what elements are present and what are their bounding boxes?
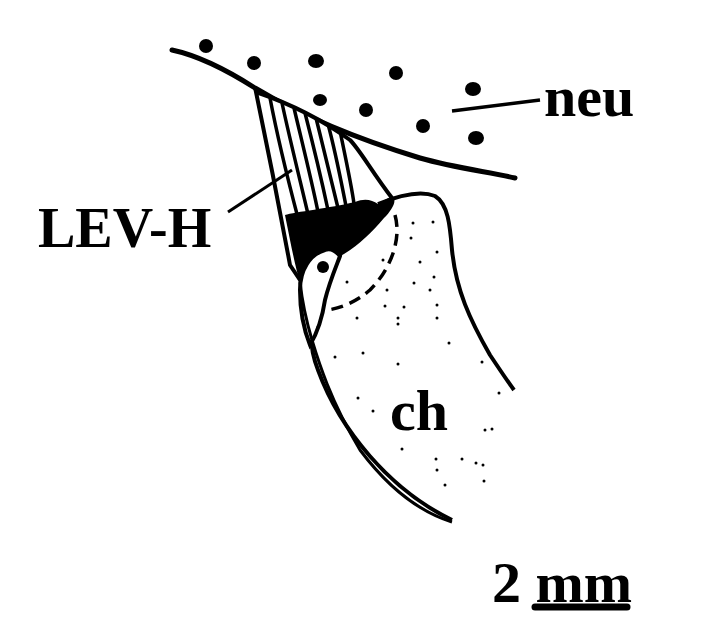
label-lev-h: LEV-H [38, 200, 211, 256]
scale-value: 2 [492, 550, 521, 615]
neu-leader-line [452, 100, 540, 111]
figure-canvas: neu LEV-H ch 2 mm [0, 0, 702, 641]
articular-dot [317, 261, 329, 273]
chondrocranium-outline [378, 193, 514, 390]
cartilage-stippling [317, 221, 501, 487]
label-neu: neu [544, 68, 634, 126]
label-ch: ch [390, 382, 448, 440]
scale-unit: mm [536, 550, 633, 615]
process-dot [372, 207, 384, 219]
scale-bar-label: 2 mm [492, 554, 632, 612]
